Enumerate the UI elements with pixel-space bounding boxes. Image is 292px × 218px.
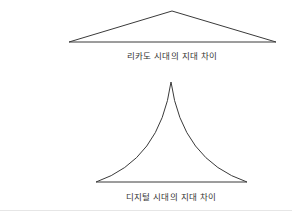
digital-era-label: 디지털 시대의 지대 차이 (126, 190, 217, 202)
ricardo-era-triangle (69, 11, 276, 42)
divider (0, 210, 292, 211)
rent-difference-diagram (0, 0, 292, 218)
digital-era-peak-shape (96, 82, 247, 182)
ricardo-era-label: 리카도 시대의 지대 차이 (127, 49, 218, 61)
